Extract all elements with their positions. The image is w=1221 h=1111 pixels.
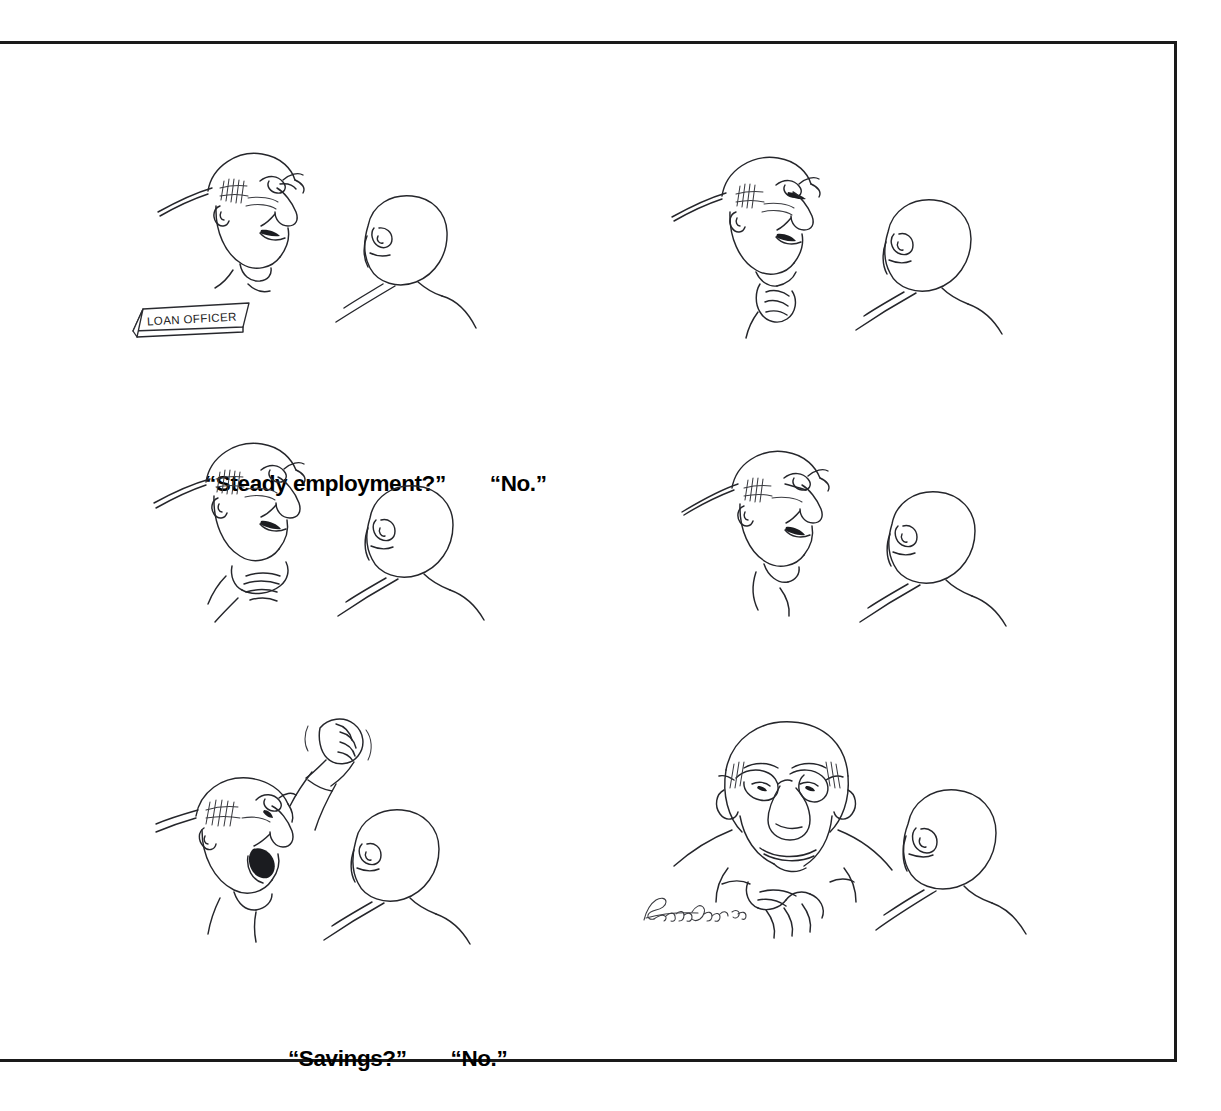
loan-officer-nameplate: LOAN OFFICER (125, 301, 255, 345)
panel-3-artwork (120, 426, 540, 661)
caption-3-part-b: “No.” (451, 1046, 508, 1071)
caption-3-part-a: “Savings?” (288, 1046, 407, 1071)
panel-2-artwork (630, 136, 1050, 371)
artist-signature (630, 892, 760, 926)
panel-4-artwork (640, 426, 1060, 661)
comic-panel-grid: LOAN OFFICER “Steady employment?”“No.” (0, 41, 1177, 1062)
panel-3-caption: “Savings?”“No.” (288, 1046, 507, 1072)
panel-5-artwork (160, 706, 580, 946)
